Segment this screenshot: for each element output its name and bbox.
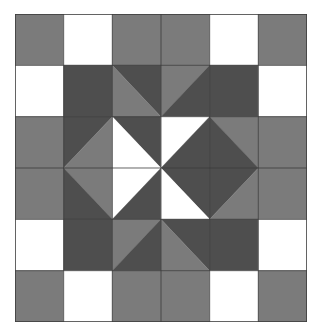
cell-r0c3-patch: [161, 14, 210, 65]
cell-r3c5-patch: [258, 168, 307, 219]
cell-r1c4-patch: [210, 65, 259, 116]
quilt-block-svg: [15, 14, 307, 322]
cell-r4c1-patch: [64, 219, 113, 270]
cell-r0c4-patch: [210, 14, 259, 65]
cell-r5c3-patch: [161, 271, 210, 322]
cell-r0c5-patch: [258, 14, 307, 65]
cell-r5c2-patch: [112, 271, 161, 322]
cell-r5c4-patch: [210, 271, 259, 322]
cell-r2c0-patch: [15, 117, 64, 168]
cell-r3c0-patch: [15, 168, 64, 219]
quilt-block: [15, 14, 307, 322]
cell-r0c1-patch: [64, 14, 113, 65]
cell-r0c0-patch: [15, 14, 64, 65]
cell-r4c4-patch: [210, 219, 259, 270]
cell-r5c1-patch: [64, 271, 113, 322]
cell-r4c5-patch: [258, 219, 307, 270]
cell-r5c0-patch: [15, 271, 64, 322]
cell-r1c0-patch: [15, 65, 64, 116]
cell-r4c0-patch: [15, 219, 64, 270]
cell-r5c5-patch: [258, 271, 307, 322]
cell-r2c5-patch: [258, 117, 307, 168]
screenshot-canvas: [0, 0, 323, 334]
cell-r1c1-patch: [64, 65, 113, 116]
cell-r0c2-patch: [112, 14, 161, 65]
cell-r1c5-patch: [258, 65, 307, 116]
